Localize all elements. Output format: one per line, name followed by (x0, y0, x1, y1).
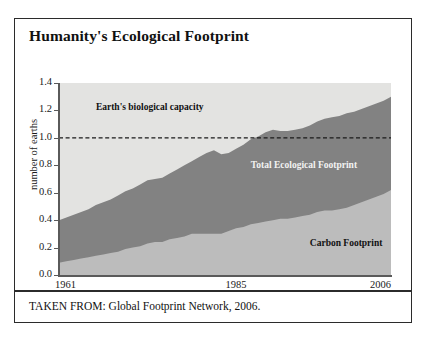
annotation-total-footprint: Total Ecological Footprint (251, 160, 358, 170)
y-axis-title: number of earths (28, 95, 39, 215)
y-axis-tick-label: 1.2 (39, 103, 52, 114)
y-axis-line (58, 83, 60, 276)
y-axis-tick-mark (54, 193, 58, 194)
footer-divider (15, 290, 411, 292)
y-axis-tick-mark (54, 248, 58, 249)
chart-container: number of earths Earth's biological capa… (15, 53, 411, 289)
y-axis-tick-mark (54, 138, 58, 139)
y-axis-tick-mark (54, 83, 58, 84)
y-axis-tick-label: 0.6 (39, 186, 52, 197)
x-axis-tick-label: 1961 (55, 279, 76, 290)
area-chart-svg: Earth's biological capacityTotal Ecologi… (59, 83, 391, 275)
x-axis-tick-label: 2006 (370, 279, 391, 290)
y-axis-tick-mark (54, 275, 58, 276)
x-axis-tick-label: 1985 (226, 279, 247, 290)
y-axis-tick-label: 1.4 (39, 76, 52, 87)
figure-panel: Humanity's Ecological Footprint number o… (14, 18, 412, 323)
annotation-carbon-footprint: Carbon Footprint (310, 238, 383, 248)
y-axis-tick-mark (54, 110, 58, 111)
y-axis-tick-label: 1.0 (39, 131, 52, 142)
y-axis-tick-label: 0.2 (39, 241, 52, 252)
y-axis-tick-mark (54, 165, 58, 166)
y-axis-tick-label: 0.0 (39, 268, 52, 279)
x-axis-line (58, 275, 392, 277)
y-axis-tick-label: 0.4 (39, 213, 52, 224)
plot-area: Earth's biological capacityTotal Ecologi… (59, 83, 391, 275)
annotation-biological-capacity: Earth's biological capacity (96, 102, 204, 112)
y-axis-tick-mark (54, 220, 58, 221)
page-title: Humanity's Ecological Footprint (29, 27, 249, 45)
source-note: TAKEN FROM: Global Footprint Network, 20… (29, 300, 260, 312)
y-axis-tick-label: 0.8 (39, 158, 52, 169)
